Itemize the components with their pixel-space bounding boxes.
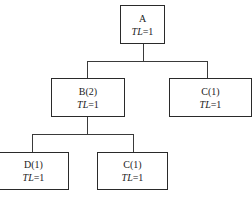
edge-b-to-d [32,134,33,152]
node-label: C(1) [201,85,219,98]
edge-b-stem [87,116,88,134]
node-tl: TL=1 [122,171,144,184]
node-tl: TL=1 [200,98,222,111]
edge-b-to-c [133,134,134,152]
node-tl: TL=1 [132,25,154,38]
node-label: C(1) [123,158,141,171]
node-d: D(1) TL=1 [0,152,69,190]
edge-a-stem [143,43,144,61]
edge-b-bar [32,134,134,135]
node-a: A TL=1 [120,5,165,44]
edge-a-bar [87,61,208,62]
node-tl: TL=1 [23,171,45,184]
node-c-top: C(1) TL=1 [169,78,252,117]
edge-a-to-c [207,61,208,78]
node-label: A [139,12,146,25]
edge-a-to-b [87,61,88,78]
node-c-bottom: C(1) TL=1 [97,152,168,190]
node-label: D(1) [24,158,43,171]
node-label: B(2) [79,85,97,98]
node-b: B(2) TL=1 [51,78,125,117]
node-tl: TL=1 [77,98,99,111]
